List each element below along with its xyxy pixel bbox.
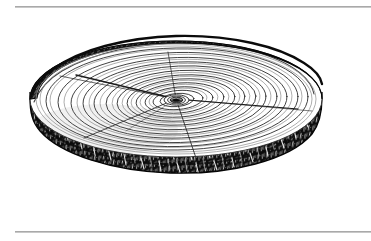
tree-trunk-illustration [0,12,371,227]
pith-core [164,95,189,105]
horizontal-rule-bottom [15,231,371,233]
horizontal-rule-top [15,6,371,8]
log-slice-drawing [0,12,371,227]
figure-page [0,0,371,241]
